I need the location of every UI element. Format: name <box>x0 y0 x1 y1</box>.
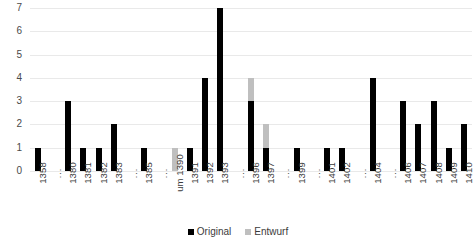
y-axis-tick-label: 7 <box>16 3 22 13</box>
x-axis-tick: 1401 <box>319 171 334 223</box>
x-axis-tick: 1409 <box>441 171 456 223</box>
bar-slot <box>198 8 213 171</box>
bar-slot <box>411 8 426 171</box>
plot-area: 01234567 <box>0 0 476 183</box>
bar-slot <box>106 8 121 171</box>
bar <box>65 101 71 171</box>
x-axis-tick: ... <box>304 171 319 223</box>
legend-swatch-icon <box>188 229 194 235</box>
x-axis-tick: 1397 <box>259 171 274 223</box>
legend-swatch-icon <box>245 229 251 235</box>
bar-slot <box>60 8 75 171</box>
x-axis-tick: 1406 <box>396 171 411 223</box>
x-axis-tick: ... <box>380 171 395 223</box>
bar-slot <box>91 8 106 171</box>
bar-slot <box>426 8 441 171</box>
bar-slot <box>152 8 167 171</box>
bar-slot <box>45 8 60 171</box>
bar <box>248 78 254 171</box>
x-axis-tick: 1380 <box>60 171 75 223</box>
bar-slot <box>243 8 258 171</box>
bar-slot <box>228 8 243 171</box>
y-axis-tick-label: 0 <box>16 166 22 176</box>
x-axis-tick: 1385 <box>137 171 152 223</box>
x-axis-tick: ... <box>274 171 289 223</box>
x-axis-tick: um 1390 <box>167 171 182 223</box>
bar-segment-original <box>400 101 406 171</box>
x-axis-tick: 1407 <box>411 171 426 223</box>
legend-item-original[interactable]: Original <box>188 226 231 237</box>
bar-slot <box>365 8 380 171</box>
bar-segment-entwurf <box>263 124 269 147</box>
x-axis-tick: 1404 <box>365 171 380 223</box>
bar-slot <box>167 8 182 171</box>
x-axis-tick: 1399 <box>289 171 304 223</box>
x-axis-tick: 1383 <box>106 171 121 223</box>
bar-slot <box>304 8 319 171</box>
bar-slot <box>182 8 197 171</box>
y-axis-tick-label: 3 <box>16 96 22 106</box>
bar-segment-original <box>248 101 254 171</box>
bar-segment-original <box>202 78 208 171</box>
x-axis-tick: 1382 <box>91 171 106 223</box>
bar-segment-original <box>217 8 223 171</box>
bar-slot <box>30 8 45 171</box>
bar-slot <box>441 8 456 171</box>
bar <box>400 101 406 171</box>
bar-slot <box>274 8 289 171</box>
bar-slot <box>350 8 365 171</box>
bar-slot <box>289 8 304 171</box>
x-axis-tick-label: 1410 <box>464 162 474 184</box>
bar-segment-original <box>431 101 437 171</box>
y-axis-tick-label: 2 <box>16 119 22 129</box>
x-axis-tick: ... <box>228 171 243 223</box>
x-axis-tick: 1396 <box>243 171 258 223</box>
x-axis-tick: 1381 <box>76 171 91 223</box>
bar-slot <box>319 8 334 171</box>
y-axis-tick-label: 4 <box>16 73 22 83</box>
x-axis-tick: ... <box>350 171 365 223</box>
y-axis-tick-label: 1 <box>16 143 22 153</box>
bar-slot <box>396 8 411 171</box>
x-axis-tick: 1358 <box>30 171 45 223</box>
bar-slot <box>259 8 274 171</box>
bar <box>431 101 437 171</box>
x-axis-tick: ... <box>45 171 60 223</box>
legend-label: Original <box>197 226 231 237</box>
bar <box>202 78 208 171</box>
x-axis: 1358...1380138113821383...1385...um 1390… <box>30 171 472 223</box>
x-axis-tick: 1392 <box>198 171 213 223</box>
chart-legend: OriginalEntwurf <box>0 226 476 237</box>
bar-slot <box>380 8 395 171</box>
bar-slot <box>121 8 136 171</box>
bar <box>370 78 376 171</box>
x-axis-tick: 1402 <box>335 171 350 223</box>
x-axis-tick: 1410 <box>457 171 472 223</box>
x-axis-tick: ... <box>152 171 167 223</box>
bar <box>217 8 223 171</box>
x-axis-tick: ... <box>121 171 136 223</box>
bar-segment-entwurf <box>248 78 254 101</box>
x-axis-tick: 1391 <box>182 171 197 223</box>
legend-item-entwurf[interactable]: Entwurf <box>245 226 288 237</box>
y-axis-tick-label: 6 <box>16 26 22 36</box>
legend-label: Entwurf <box>254 226 288 237</box>
y-axis-tick-label: 5 <box>16 50 22 60</box>
bar-slot <box>335 8 350 171</box>
bar-segment-original <box>65 101 71 171</box>
bar-slot <box>457 8 472 171</box>
bar-series-container <box>30 8 472 171</box>
bar-chart: 01234567 1358...1380138113821383...1385.… <box>0 0 476 248</box>
bar-slot <box>213 8 228 171</box>
bar-segment-original <box>370 78 376 171</box>
bar-slot <box>76 8 91 171</box>
bar-slot <box>137 8 152 171</box>
x-axis-tick: 1393 <box>213 171 228 223</box>
x-axis-tick: 1408 <box>426 171 441 223</box>
y-axis: 01234567 <box>0 8 26 171</box>
